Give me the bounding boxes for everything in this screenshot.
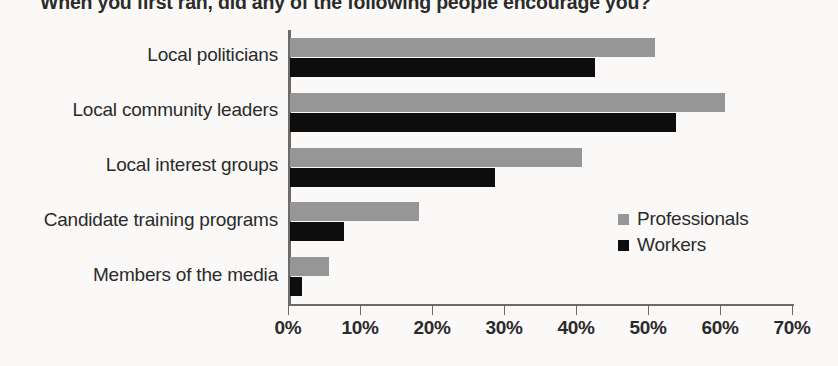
category-label: Candidate training programs bbox=[0, 209, 278, 231]
category-label: Local politicians bbox=[0, 44, 278, 66]
bar-workers bbox=[290, 58, 595, 77]
x-tick-mark bbox=[720, 306, 721, 315]
legend-entry: Professionals bbox=[618, 206, 748, 232]
bar-professionals bbox=[290, 257, 329, 276]
bar-professionals bbox=[290, 148, 582, 167]
chart-title: When you first ran, did any of the follo… bbox=[40, 0, 740, 14]
chart-legend: ProfessionalsWorkers bbox=[618, 206, 748, 258]
x-tick-mark bbox=[504, 306, 505, 315]
bar-workers bbox=[290, 168, 495, 187]
x-axis-line bbox=[288, 304, 794, 306]
category-label: Members of the media bbox=[0, 264, 278, 286]
bar-professionals bbox=[290, 202, 419, 221]
legend-label: Professionals bbox=[637, 208, 748, 230]
category-label: Local interest groups bbox=[0, 154, 278, 176]
x-tick-mark bbox=[648, 306, 649, 315]
x-tick-label: 40% bbox=[541, 317, 611, 339]
x-tick-mark bbox=[360, 306, 361, 315]
x-tick-label: 70% bbox=[757, 317, 827, 339]
x-tick-mark bbox=[576, 306, 577, 315]
category-label: Local community leaders bbox=[0, 99, 278, 121]
x-tick-label: 50% bbox=[613, 317, 683, 339]
x-tick-label: 10% bbox=[325, 317, 395, 339]
x-tick-label: 20% bbox=[397, 317, 467, 339]
bar-workers bbox=[290, 277, 302, 296]
x-tick-label: 30% bbox=[469, 317, 539, 339]
bar-chart: When you first ran, did any of the follo… bbox=[0, 0, 838, 366]
x-tick-mark bbox=[288, 306, 289, 315]
legend-swatch-icon bbox=[618, 214, 629, 225]
bar-professionals bbox=[290, 93, 725, 112]
x-tick-label: 0% bbox=[253, 317, 323, 339]
legend-entry: Workers bbox=[618, 232, 748, 258]
x-tick-mark bbox=[792, 306, 793, 315]
legend-swatch-icon bbox=[618, 240, 629, 251]
x-tick-label: 60% bbox=[685, 317, 755, 339]
bar-workers bbox=[290, 113, 676, 132]
x-tick-mark bbox=[432, 306, 433, 315]
legend-label: Workers bbox=[637, 234, 706, 256]
bar-professionals bbox=[290, 38, 655, 57]
bar-workers bbox=[290, 222, 344, 241]
